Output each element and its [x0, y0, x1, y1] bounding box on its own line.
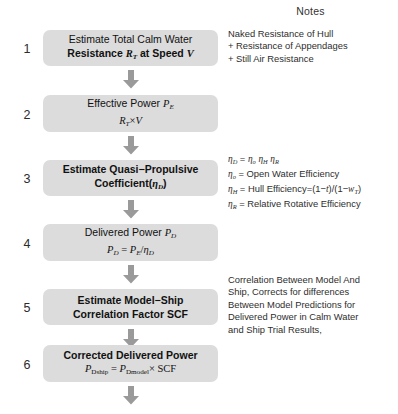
step-4-sub-etad: D	[149, 249, 154, 257]
step-number-2: 2	[18, 108, 36, 122]
note-block-step-3: ηD = ηo ηH ηR ηo = Open Water Efficiency…	[228, 153, 396, 213]
note-3-line-3: ηH = Hull Efficiency=(1−t)/(1−wT)	[228, 183, 396, 198]
step-2-text-effective-power: Effective Power	[87, 97, 163, 109]
step-6-sub-dship: Dship	[91, 368, 108, 376]
step-1-symbol-rt: R	[126, 48, 133, 59]
step-3-text-paren: )	[163, 177, 167, 189]
step-6-line-1: Corrected Delivered Power	[63, 348, 197, 362]
step-6-operator-scf: × SCF	[149, 363, 176, 374]
arrow-1-to-2	[122, 70, 140, 89]
note-5-line-1: Correlation Between Model And	[228, 274, 396, 286]
note-3-l4-text: = Relative Rotative Efficiency	[237, 198, 361, 209]
arrow-6-to-next	[122, 386, 140, 405]
note-3-equals: =	[237, 153, 248, 164]
note-5-line-3: Between Model Predictions for	[228, 299, 396, 311]
note-3-sub-o: o	[253, 158, 256, 165]
note-3-l2-text: = Open Water Efficiency	[236, 168, 339, 179]
note-3-sub-r: R	[275, 158, 279, 165]
step-number-5: 5	[18, 301, 36, 315]
flowchart-canvas: Notes 1 Estimate Total Calm Water Resist…	[0, 0, 398, 414]
step-number-6: 6	[18, 358, 36, 372]
step-3-line-1: Estimate Quasi−Propulsive	[63, 162, 199, 176]
step-1-text-atspeed: at Speed	[137, 47, 187, 59]
note-1-line-1: Naked Resistance of Hull	[228, 28, 396, 40]
note-1-line-3: + Still Air Resistance	[228, 53, 396, 65]
step-1-line-2: Resistance RT at Speed V	[67, 46, 193, 64]
step-4-text-delivered-power: Delivered Power	[85, 226, 165, 238]
step-box-1[interactable]: Estimate Total Calm Water Resistance RT …	[43, 30, 218, 66]
note-3-line-4: ηR = Relative Rotative Efficiency	[228, 198, 396, 213]
step-4-line-1: Delivered Power PD	[85, 225, 177, 243]
step-number-3: 3	[18, 172, 36, 186]
step-number-4: 4	[18, 237, 36, 251]
step-number-1: 1	[18, 42, 36, 56]
step-1-line-1: Estimate Total Calm Water	[69, 32, 193, 46]
step-6-equals: =	[108, 363, 119, 374]
arrow-4-to-5	[122, 265, 140, 284]
step-2-subscript-e: E	[169, 103, 173, 111]
step-box-5[interactable]: Estimate Model−Ship Correlation Factor S…	[43, 289, 218, 325]
step-4-equals: =	[119, 244, 130, 255]
step-3-line-2: Coefficient(ηD)	[94, 176, 166, 194]
note-1-line-2: + Resistance of Appendages	[228, 40, 396, 52]
note-5-line-5: and Ship Trial Results,	[228, 324, 396, 336]
note-5-line-2: Ship, Corrects for differences	[228, 286, 396, 298]
step-2-line-1: Effective Power PE	[87, 96, 173, 114]
step-box-2[interactable]: Effective Power PE RT×V	[43, 95, 218, 132]
step-5-line-1: Estimate Model−Ship	[78, 293, 184, 307]
note-5-line-4: Delivered Power in Calm Water	[228, 311, 396, 323]
note-3-line-2: ηo = Open Water Efficiency	[228, 168, 396, 183]
note-3-line-1: ηD = ηo ηH ηR	[228, 153, 396, 168]
note-3-l3-text-c: )	[358, 183, 361, 194]
step-3-text-coefficient: Coefficient(	[94, 177, 152, 189]
step-4-subscript-d: D	[171, 232, 176, 240]
step-6-line-2: PDship = PDmodel× SCF	[85, 362, 176, 379]
arrow-2-to-3	[122, 136, 140, 155]
arrow-3-to-4	[122, 200, 140, 219]
step-5-line-2: Correlation Factor SCF	[73, 307, 188, 321]
note-block-step-5: Correlation Between Model And Ship, Corr…	[228, 274, 396, 336]
step-2-symbol-v: V	[135, 115, 141, 126]
note-3-l3-text-b: )/(1−	[329, 183, 349, 194]
note-3-l3-text-a: = Hull Efficiency=(1−	[237, 183, 326, 194]
note-block-step-1: Naked Resistance of Hull + Resistance of…	[228, 28, 396, 65]
step-4-line-2: PD = PE/ηD	[107, 243, 154, 260]
step-1-symbol-v: V	[187, 48, 194, 59]
note-3-sub-h: H	[263, 158, 268, 165]
step-box-3[interactable]: Estimate Quasi−Propulsive Coefficient(ηD…	[43, 160, 218, 196]
notes-column-header: Notes	[228, 5, 393, 17]
step-2-line-2: RT×V	[119, 114, 142, 131]
step-box-6[interactable]: Corrected Delivered Power PDship = PDmod…	[43, 345, 218, 382]
step-box-4[interactable]: Delivered Power PD PD = PE/ηD	[43, 224, 218, 261]
step-1-text-resistance: Resistance	[67, 47, 125, 59]
step-6-sub-dmodel: Dmodel	[126, 368, 149, 376]
